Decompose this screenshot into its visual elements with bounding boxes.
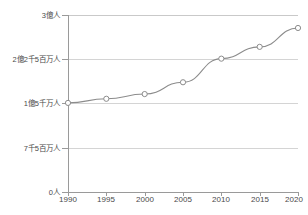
data-point-2010: [219, 56, 224, 61]
data-point-2020: [295, 25, 300, 30]
data-point-1990: [65, 100, 70, 105]
data-point-2000: [142, 91, 147, 96]
series-markers: [65, 25, 300, 105]
data-point-1995: [104, 96, 109, 101]
line-chart: 3億人 2億2千5百万人 1億5千万人 7千5百万人 0人 1990 1995 …: [0, 0, 308, 215]
data-point-2005: [180, 80, 185, 85]
data-point-2015: [257, 44, 262, 49]
data-series-layer: [0, 0, 308, 215]
series-line: [68, 28, 298, 103]
